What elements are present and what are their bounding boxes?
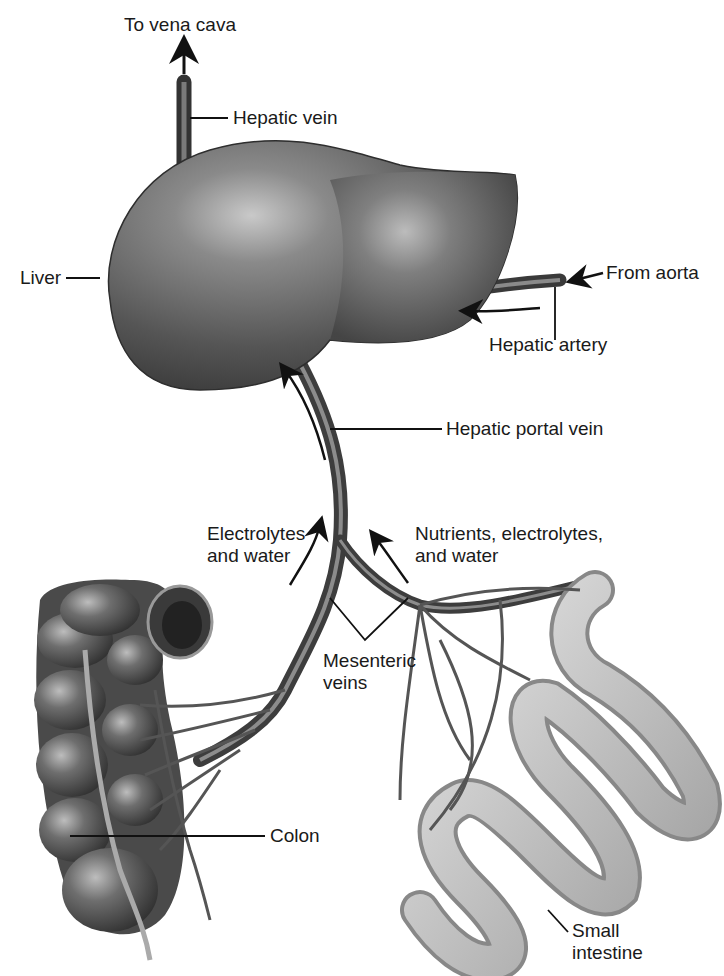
label-small-intestine-line1: Small: [572, 920, 643, 942]
label-from-aorta: From aorta: [606, 262, 699, 284]
label-hepatic-portal-vein: Hepatic portal vein: [446, 418, 603, 440]
colon: [34, 579, 212, 960]
label-mesenteric-veins: Mesenteric veins: [323, 650, 416, 694]
label-nutrients-line1: Nutrients, electrolytes,: [415, 523, 603, 545]
aorta-arrow: [575, 273, 603, 280]
label-small-intestine-line2: intestine: [572, 942, 643, 964]
small-intestine: [420, 590, 702, 962]
label-mesenteric-line1: Mesenteric: [323, 650, 416, 672]
label-mesenteric-line2: veins: [323, 672, 416, 694]
liver: [108, 141, 517, 390]
label-electrolytes-line2: and water: [207, 545, 305, 567]
label-hepatic-artery: Hepatic artery: [489, 334, 607, 356]
label-to-vena-cava: To vena cava: [124, 14, 236, 36]
diagram-artwork: [0, 0, 724, 976]
label-liver: Liver: [20, 267, 61, 289]
label-electrolytes-line1: Electrolytes: [207, 523, 305, 545]
label-colon: Colon: [270, 825, 320, 847]
label-electrolytes-and-water: Electrolytes and water: [207, 523, 305, 567]
label-hepatic-vein: Hepatic vein: [233, 107, 338, 129]
label-small-intestine: Small intestine: [572, 920, 643, 964]
label-nutrients-electrolytes-water: Nutrients, electrolytes, and water: [415, 523, 603, 567]
label-nutrients-line2: and water: [415, 545, 603, 567]
